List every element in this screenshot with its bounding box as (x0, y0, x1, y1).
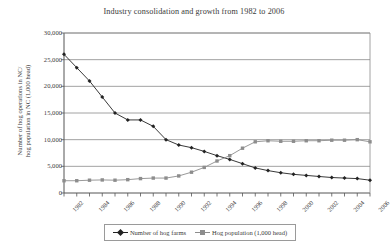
legend-entry-hog-population: Hog population (1,000 head) (195, 229, 287, 237)
x-tick-label: 2002 (326, 199, 340, 213)
x-tick-label: 1996 (249, 199, 263, 213)
x-tick-label: 1986 (122, 199, 136, 213)
x-tick-label: 2004 (351, 199, 365, 213)
x-tick-label: 2006 (377, 199, 391, 213)
x-tick-label: 1984 (96, 199, 110, 213)
legend-marker-hog-farms-icon (113, 229, 128, 237)
legend-label-hog-population: Hog population (1,000 head) (212, 229, 287, 236)
chart-legend: Number of hog farms Hog population (1,00… (104, 224, 296, 241)
legend-marker-hog-population-icon (195, 229, 210, 237)
x-tick-label: 1992 (198, 199, 212, 213)
x-tick-label: 1994 (224, 199, 238, 213)
x-tick-label: 2000 (300, 199, 314, 213)
x-tick-label: 1998 (275, 199, 289, 213)
legend-label-hog-farms: Number of hog farms (130, 229, 186, 236)
legend-entry-hog-farms: Number of hog farms (113, 229, 186, 237)
x-tick-label: 1990 (173, 199, 187, 213)
x-tick-label: 1982 (71, 199, 85, 213)
x-tick-label: 1988 (147, 199, 161, 213)
